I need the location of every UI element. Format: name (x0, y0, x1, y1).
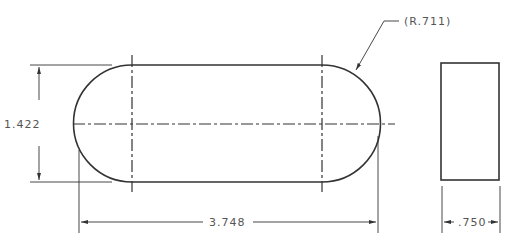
height-dimension-label: 1.422 (4, 118, 41, 131)
thickness-dimension-label: .750 (458, 216, 487, 229)
centerlines (73, 55, 395, 192)
side-view (441, 63, 499, 180)
length-dimension-label: 3.748 (209, 216, 246, 229)
radius-leader (356, 21, 399, 70)
drawing-canvas: 1.422 3.748 (R.711) .750 (0, 0, 520, 245)
radius-label: (R.711) (404, 15, 451, 28)
